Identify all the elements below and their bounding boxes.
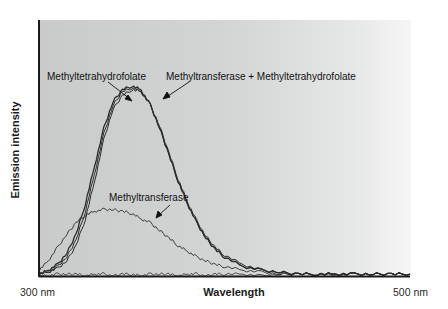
arrow-mt-head bbox=[156, 211, 162, 218]
annotation-methyltransferase: Methyltransferase bbox=[109, 192, 188, 203]
plot-svg bbox=[0, 0, 448, 309]
arrow-combo-head bbox=[163, 92, 170, 99]
y-axis-label: Emission intensity bbox=[9, 101, 21, 198]
x-tick-start: 300 nm bbox=[20, 286, 55, 298]
arrow-combo bbox=[168, 82, 189, 96]
x-tick-end: 500 nm bbox=[393, 286, 428, 298]
series-line-methyltransferase-methyltetrahydrofolate bbox=[39, 90, 410, 276]
series-line-methyltransferase bbox=[39, 208, 410, 275]
emission-spectrum-chart: Methyltetrahydrofolate Methyltransferase… bbox=[0, 0, 448, 309]
annotation-methyltransferase-plus-mthf: Methyltransferase + Methyltetrahydrofola… bbox=[166, 71, 356, 82]
x-axis-label: Wavelength bbox=[203, 286, 264, 298]
annotation-methyltetrahydrofolate: Methyltetrahydrofolate bbox=[47, 71, 146, 82]
series-lines bbox=[39, 86, 410, 276]
